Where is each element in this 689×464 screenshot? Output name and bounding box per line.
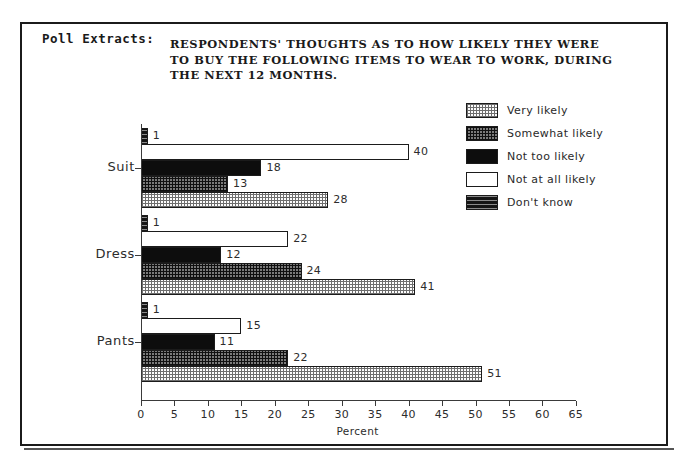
- bar-suit-don-t-know: [141, 128, 148, 144]
- x-axis-tick: [342, 401, 343, 406]
- bar-value-label: 51: [487, 366, 502, 382]
- bar-value-label: 12: [226, 247, 241, 263]
- x-axis-tick-label: 55: [494, 408, 524, 421]
- x-axis-tick-label: 35: [360, 408, 390, 421]
- bar-value-label: 1: [153, 215, 160, 231]
- x-axis-tick-label: 0: [126, 408, 156, 421]
- x-axis-tick: [141, 401, 142, 406]
- x-axis-tick: [576, 401, 577, 406]
- category-label-suit: Suit: [49, 159, 135, 174]
- x-axis-tick: [476, 401, 477, 406]
- bar-value-label: 22: [293, 231, 308, 247]
- category-label-dress: Dress: [49, 246, 135, 261]
- bar-pants-not-too-likely: [141, 334, 215, 350]
- bar-value-label: 22: [293, 350, 308, 366]
- category-label-pants: Pants: [49, 333, 135, 348]
- bar-value-label: 15: [246, 318, 261, 334]
- x-axis-tick: [542, 401, 543, 406]
- bar-value-label: 1: [153, 128, 160, 144]
- x-axis-tick-label: 40: [394, 408, 424, 421]
- x-axis-tick: [409, 401, 410, 406]
- bar-dress-somewhat-likely: [141, 263, 302, 279]
- x-axis-tick-label: 60: [527, 408, 557, 421]
- x-axis-tick-label: 65: [561, 408, 591, 421]
- y-axis-line: [141, 124, 142, 400]
- bar-dress-don-t-know: [141, 215, 148, 231]
- bar-suit-very-likely: [141, 192, 328, 208]
- bar-pants-very-likely: [141, 366, 482, 382]
- x-axis-line: [141, 400, 576, 401]
- x-axis-tick: [208, 401, 209, 406]
- x-axis-tick: [509, 401, 510, 406]
- x-axis-tick: [275, 401, 276, 406]
- x-axis-tick: [375, 401, 376, 406]
- bar-value-label: 11: [220, 334, 235, 350]
- x-axis-tick-label: 20: [260, 408, 290, 421]
- x-axis-tick: [241, 401, 242, 406]
- x-axis-tick: [308, 401, 309, 406]
- x-axis-tick: [442, 401, 443, 406]
- bar-value-label: 28: [333, 192, 348, 208]
- bar-dress-not-too-likely: [141, 247, 221, 263]
- bar-suit-not-at-all-likely: [141, 144, 409, 160]
- x-axis-tick-label: 50: [461, 408, 491, 421]
- x-axis-tick-label: 30: [327, 408, 357, 421]
- bar-dress-not-at-all-likely: [141, 231, 288, 247]
- bar-dress-very-likely: [141, 279, 415, 295]
- x-axis-tick-label: 25: [293, 408, 323, 421]
- x-axis-tick-label: 5: [159, 408, 189, 421]
- x-axis-title: Percent: [336, 425, 378, 437]
- bar-suit-somewhat-likely: [141, 176, 228, 192]
- bar-pants-not-at-all-likely: [141, 318, 241, 334]
- bar-value-label: 41: [420, 279, 435, 295]
- bar-value-label: 18: [266, 160, 281, 176]
- x-axis-tick-label: 15: [226, 408, 256, 421]
- bar-pants-somewhat-likely: [141, 350, 288, 366]
- x-axis-tick: [174, 401, 175, 406]
- bar-value-label: 24: [307, 263, 322, 279]
- bar-value-label: 1: [153, 302, 160, 318]
- x-axis-tick-label: 45: [427, 408, 457, 421]
- bar-suit-not-too-likely: [141, 160, 261, 176]
- bar-value-label: 13: [233, 176, 248, 192]
- x-axis-tick-label: 10: [193, 408, 223, 421]
- chart-plot-area: 140181328Suit122122441Dress115112251Pant…: [0, 0, 689, 464]
- bar-value-label: 40: [414, 144, 429, 160]
- bar-pants-don-t-know: [141, 302, 148, 318]
